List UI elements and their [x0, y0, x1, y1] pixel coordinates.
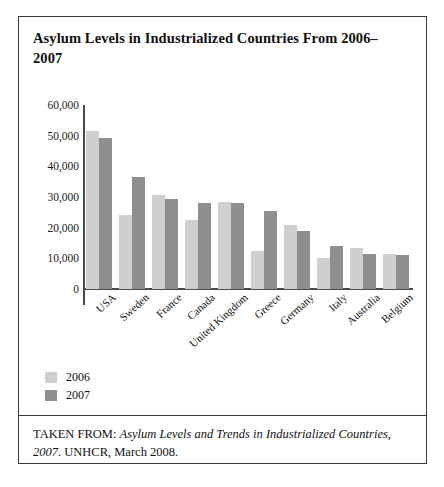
source-prefix: TAKEN FROM: [33, 427, 120, 441]
y-axis-tick-labels: 60,00050,00040,00030,00020,00010,0000 [19, 89, 79, 305]
y-axis-tick-label: 0 [21, 283, 79, 295]
legend-item-2007: 2007 [45, 388, 225, 403]
bar-2007-australia [363, 254, 376, 289]
bar-group [119, 105, 145, 289]
figure-frame: Asylum Levels in Industrialized Countrie… [18, 16, 427, 464]
bar-group [350, 105, 376, 289]
y-axis-tick-label: 40,000 [21, 160, 79, 172]
y-axis-tick-label: 20,000 [21, 222, 79, 234]
chart-legend: 20062007 [45, 370, 225, 406]
source-divider [19, 415, 426, 416]
bar-group [185, 105, 211, 289]
bar-group [86, 105, 112, 289]
y-axis-tick-label: 30,000 [21, 191, 79, 203]
bar-group [218, 105, 244, 289]
chart-plot-area: 60,00050,00040,00030,00020,00010,0000 US… [19, 89, 425, 364]
page-title: Asylum Levels in Industrialized Countrie… [33, 29, 405, 68]
legend-swatch-2007 [45, 390, 57, 401]
bar-2006-usa [86, 131, 99, 289]
source-suffix: . UNHCR, March 2008. [58, 445, 178, 459]
x-axis-label-text: USA [94, 291, 118, 315]
bar-2007-sweden [132, 177, 145, 289]
legend-swatch-2006 [45, 372, 57, 383]
bar-group [317, 105, 343, 289]
bar-group [383, 105, 409, 289]
bar-group [152, 105, 178, 289]
x-axis-label-text: France [154, 291, 184, 320]
legend-item-2006: 2006 [45, 370, 225, 385]
x-axis-label-text: United Kingdom [187, 291, 250, 350]
y-axis-tick-label: 10,000 [21, 252, 79, 264]
legend-label-2007: 2007 [66, 388, 90, 403]
bar-series-layer [84, 105, 414, 289]
legend-label-2006: 2006 [66, 370, 90, 385]
y-axis-tick-label: 50,000 [21, 130, 79, 142]
x-axis-category-labels: USASwedenFranceCanadaUnited KingdomGreec… [84, 291, 424, 363]
source-note: TAKEN FROM: Asylum Levels and Trends in … [33, 425, 411, 461]
x-axis-label-text: Italy [326, 291, 349, 313]
y-axis-tick-label: 60,000 [21, 99, 79, 111]
bar-2007-usa [99, 138, 112, 289]
